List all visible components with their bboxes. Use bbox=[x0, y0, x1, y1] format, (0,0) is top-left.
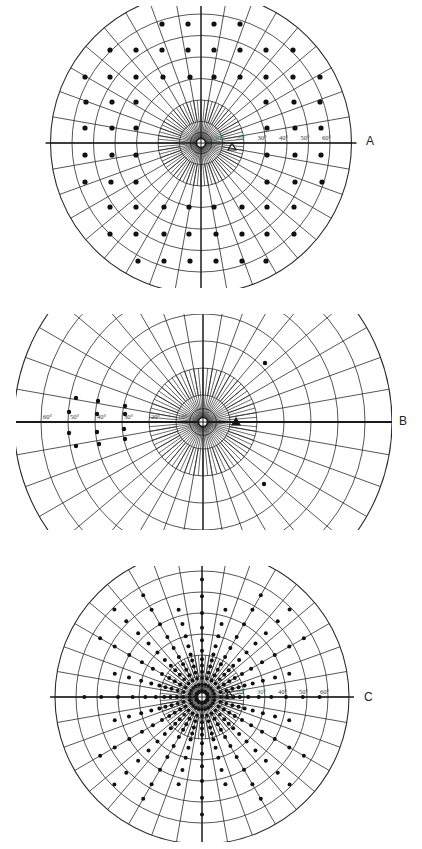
test-point bbox=[250, 608, 254, 612]
test-point bbox=[124, 771, 128, 775]
test-point bbox=[200, 764, 204, 768]
scale-label: 20° bbox=[236, 134, 246, 141]
test-point bbox=[178, 708, 182, 712]
test-point bbox=[217, 705, 221, 709]
test-point bbox=[200, 813, 204, 817]
test-point bbox=[200, 708, 204, 712]
test-point bbox=[172, 646, 176, 650]
test-point bbox=[74, 396, 78, 400]
test-point bbox=[109, 125, 114, 130]
test-point bbox=[242, 622, 246, 626]
test-point bbox=[200, 649, 204, 653]
test-point bbox=[207, 671, 211, 675]
test-point bbox=[184, 722, 188, 726]
test-point bbox=[251, 681, 255, 685]
test-point bbox=[261, 711, 265, 715]
test-point bbox=[158, 622, 162, 626]
test-point bbox=[273, 737, 277, 741]
test-point bbox=[195, 692, 199, 696]
test-point bbox=[206, 698, 210, 702]
test-point bbox=[200, 752, 204, 756]
test-point bbox=[173, 668, 177, 672]
test-point bbox=[133, 47, 138, 52]
test-point bbox=[175, 695, 179, 699]
test-point bbox=[67, 410, 71, 414]
test-point bbox=[184, 668, 188, 672]
test-point bbox=[187, 74, 192, 79]
test-point bbox=[178, 682, 182, 686]
test-point bbox=[237, 658, 241, 662]
test-point bbox=[112, 607, 116, 611]
test-point bbox=[239, 231, 244, 236]
test-point bbox=[287, 745, 291, 749]
test-point bbox=[200, 670, 204, 674]
test-point bbox=[176, 689, 180, 693]
test-point bbox=[200, 779, 204, 783]
test-point bbox=[237, 685, 241, 689]
test-point bbox=[182, 677, 186, 681]
test-point bbox=[210, 712, 214, 716]
test-point bbox=[159, 47, 164, 52]
test-point bbox=[191, 679, 195, 683]
test-point bbox=[99, 695, 103, 699]
test-point bbox=[200, 689, 204, 693]
test-point bbox=[133, 231, 138, 236]
test-point bbox=[253, 642, 257, 646]
test-point bbox=[240, 718, 244, 722]
test-point bbox=[127, 675, 131, 679]
test-point bbox=[192, 725, 196, 729]
test-point bbox=[200, 594, 204, 598]
test-point bbox=[287, 718, 291, 722]
test-point bbox=[82, 695, 86, 699]
test-point bbox=[223, 735, 227, 739]
test-point bbox=[195, 713, 199, 717]
scale-label: 50° bbox=[301, 134, 311, 141]
test-point bbox=[95, 412, 99, 416]
blind-spot-marker bbox=[228, 143, 236, 150]
test-point bbox=[318, 125, 323, 130]
test-point bbox=[155, 650, 159, 654]
test-point bbox=[143, 695, 147, 699]
test-point bbox=[301, 695, 305, 699]
test-point bbox=[250, 782, 254, 786]
test-point bbox=[262, 482, 266, 486]
test-point bbox=[217, 686, 221, 690]
test-point bbox=[200, 727, 204, 731]
test-point bbox=[273, 675, 277, 679]
test-point bbox=[317, 74, 322, 79]
test-point bbox=[214, 682, 218, 686]
test-point bbox=[136, 631, 140, 635]
test-point bbox=[253, 748, 257, 752]
test-point bbox=[178, 673, 182, 677]
test-point bbox=[133, 152, 138, 157]
test-point bbox=[173, 679, 177, 683]
test-point bbox=[291, 231, 296, 236]
test-point bbox=[161, 258, 166, 263]
test-point bbox=[147, 642, 151, 646]
test-point bbox=[131, 695, 135, 699]
test-point bbox=[264, 152, 269, 157]
test-point bbox=[222, 682, 226, 686]
test-point bbox=[225, 689, 229, 693]
test-point bbox=[108, 179, 113, 184]
test-point bbox=[184, 705, 188, 709]
test-point bbox=[187, 682, 191, 686]
test-point bbox=[238, 695, 242, 699]
test-point bbox=[180, 768, 184, 772]
test-point bbox=[113, 745, 117, 749]
test-point bbox=[200, 733, 204, 737]
test-point bbox=[292, 152, 297, 157]
test-point bbox=[290, 47, 295, 52]
test-point bbox=[276, 619, 280, 623]
test-point bbox=[165, 635, 169, 639]
test-point bbox=[194, 720, 198, 724]
test-point bbox=[107, 47, 112, 52]
test-point bbox=[200, 714, 204, 718]
test-point bbox=[163, 685, 167, 689]
test-point bbox=[136, 759, 140, 763]
test-point bbox=[200, 676, 204, 680]
test-point bbox=[98, 636, 102, 640]
test-point bbox=[276, 771, 280, 775]
test-point bbox=[157, 684, 161, 688]
test-point bbox=[197, 707, 201, 711]
